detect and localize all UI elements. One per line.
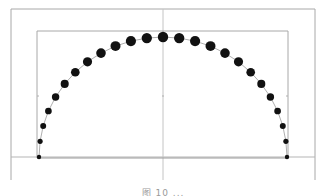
data-point [96, 48, 106, 58]
data-point [142, 33, 152, 43]
data-point [274, 108, 281, 115]
data-point [52, 93, 59, 100]
data-point [220, 48, 230, 58]
data-point [246, 68, 255, 77]
data-point [283, 139, 288, 144]
data-point [111, 41, 121, 51]
data-point [61, 80, 69, 88]
figure-caption: 图 10 ... [0, 186, 326, 196]
data-point [71, 68, 80, 77]
data-point [83, 57, 92, 66]
semicircle-chart [0, 0, 326, 186]
data-point [267, 93, 274, 100]
data-point [206, 41, 216, 51]
data-point [174, 33, 184, 43]
data-point [190, 36, 200, 46]
data-point [158, 32, 168, 42]
data-point [38, 139, 43, 144]
data-point [126, 36, 136, 46]
data-point [257, 80, 265, 88]
data-point [285, 155, 289, 159]
data-point [40, 123, 46, 129]
data-point [280, 123, 286, 129]
data-point [45, 108, 52, 115]
data-point [37, 155, 41, 159]
data-point [234, 57, 243, 66]
